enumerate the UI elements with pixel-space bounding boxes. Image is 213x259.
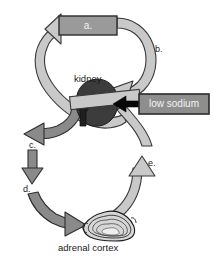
arrow-d	[28, 192, 86, 236]
adrenal-cortex-label: adrenal cortex	[58, 243, 118, 253]
diagram-canvas: a. low sodium kidney adrenal cortex b. c…	[0, 0, 213, 259]
arrowhead-d	[22, 168, 43, 184]
adrenal-cortex	[83, 211, 136, 241]
step-label-d: d.	[23, 185, 31, 194]
step-label-e: e.	[148, 159, 156, 168]
arrow-c-to-d	[22, 150, 43, 184]
step-label-b: b.	[155, 45, 163, 54]
diagram-svg	[0, 0, 213, 259]
kidney-ureter	[80, 108, 86, 126]
step-label-c: c.	[29, 141, 36, 150]
box-a-label: a.	[59, 16, 117, 35]
kidney-label: kidney	[74, 74, 101, 84]
arrowhead-d-end	[65, 212, 86, 236]
box-low-sodium-label: low sodium	[139, 94, 209, 114]
